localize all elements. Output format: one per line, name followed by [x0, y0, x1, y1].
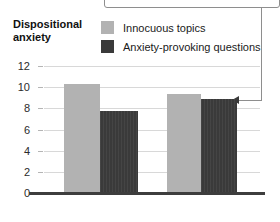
callout-box	[104, 0, 280, 8]
y-axis-tick-mark	[38, 151, 43, 152]
y-axis-tick-label: 4	[4, 145, 30, 157]
y-axis-title-line-2: anxiety	[13, 31, 99, 44]
bar-chart-figure: Dispositional anxiety Innocuous topics A…	[0, 0, 280, 222]
y-axis-tick-mark	[38, 66, 43, 67]
bar	[100, 111, 138, 193]
y-axis-title-line-1: Dispositional	[13, 18, 99, 31]
y-axis-tick-mark	[38, 108, 43, 109]
y-axis-tick-label: 10	[4, 81, 30, 93]
bar	[64, 84, 100, 193]
x-axis-baseline	[29, 192, 265, 195]
y-axis-tick-mark	[38, 130, 43, 131]
legend-swatch-icon-innocuous-topics	[101, 21, 114, 34]
y-axis-tick-label: 0	[4, 187, 30, 199]
callout-leader-line-vertical	[261, 7, 262, 101]
y-axis-tick-label: 6	[4, 124, 30, 136]
legend-label-innocuous-topics: Innocuous topics	[123, 22, 206, 34]
legend: Innocuous topics Anxiety-provoking quest…	[101, 18, 261, 56]
gridline	[44, 66, 260, 67]
y-axis-tick-mark	[38, 87, 43, 88]
plot-area: 024681012Not busyBusy	[44, 66, 260, 193]
y-axis-tick-label: 12	[4, 60, 30, 72]
legend-item-anxiety-provoking-questions: Anxiety-provoking questions	[101, 37, 261, 56]
bar	[167, 94, 201, 193]
legend-swatch-icon-anxiety-provoking-questions	[101, 40, 114, 53]
y-axis-tick-label: 2	[4, 166, 30, 178]
bar	[201, 99, 237, 193]
y-axis-title: Dispositional anxiety	[13, 18, 99, 44]
y-axis-tick-mark	[38, 172, 43, 173]
y-axis-tick-label: 8	[4, 102, 30, 114]
legend-label-anxiety-provoking-questions: Anxiety-provoking questions	[123, 41, 261, 53]
legend-item-innocuous-topics: Innocuous topics	[101, 18, 261, 37]
